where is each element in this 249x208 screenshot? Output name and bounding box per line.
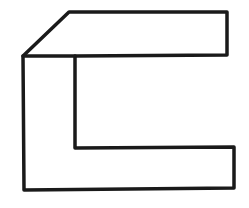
diagram-canvas [0, 0, 249, 208]
c-bracket-outline [23, 12, 234, 190]
c-bracket-drawing [0, 0, 249, 208]
